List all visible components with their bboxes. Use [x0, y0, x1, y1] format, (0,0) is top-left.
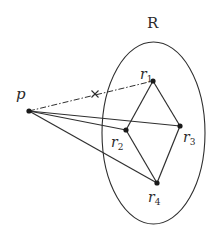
node-label-r4: r4: [148, 189, 161, 207]
node-label-r1: r1: [140, 66, 152, 84]
node-r3: [177, 123, 182, 128]
node-label-r3: r3: [183, 129, 196, 147]
diagram-canvas: R p: [0, 0, 217, 235]
node-r4: [154, 180, 159, 185]
nodes: [26, 78, 182, 185]
blocked-edge-p-r1: [29, 81, 153, 111]
polygon-edges: [126, 81, 180, 183]
node-p: [26, 108, 31, 113]
edge-r3-r4: [157, 126, 180, 183]
edge-p-r2: [29, 111, 126, 130]
edge-r1-r3: [153, 81, 180, 126]
node-r2: [123, 127, 128, 132]
node-label-r2: r2: [111, 134, 123, 152]
visibility-diagram: R p: [0, 0, 217, 235]
region-label: R: [147, 14, 159, 32]
edge-r2-r4: [126, 130, 157, 183]
edges-from-p: [29, 111, 180, 183]
point-p-label: p: [16, 85, 26, 103]
